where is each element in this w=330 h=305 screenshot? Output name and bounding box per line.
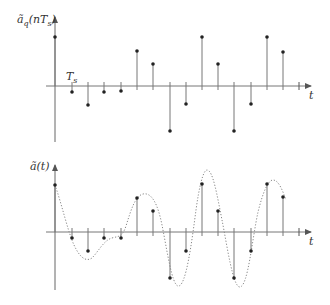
top-stems xyxy=(55,37,283,131)
top-plot: ãq(nTs) t Ts xyxy=(17,13,314,142)
bottom-plot: ã(t) t xyxy=(30,160,314,290)
bottom-x-label: t xyxy=(309,235,314,248)
figure: ãq(nTs) t Ts xyxy=(0,0,330,305)
top-y-label: ãq(nTs) xyxy=(17,13,56,28)
top-x-label: t xyxy=(309,89,314,102)
bottom-y-label: ã(t) xyxy=(30,160,50,173)
